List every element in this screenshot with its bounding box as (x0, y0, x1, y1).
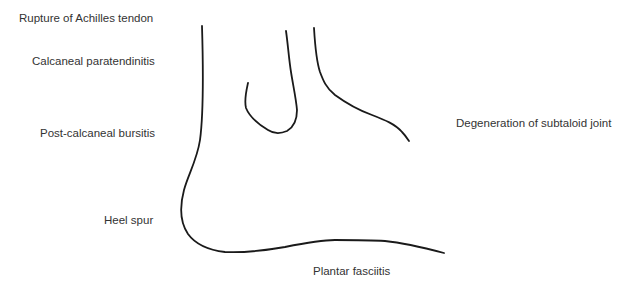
label-heel-spur: Heel spur (104, 215, 153, 227)
heel-achilles-outline (181, 26, 444, 253)
dorsum-outline (314, 28, 409, 141)
foot-outline-drawing (0, 0, 636, 290)
label-calcaneal-paratendinitis: Calcaneal paratendinitis (32, 56, 155, 68)
label-rupture-achilles-tendon: Rupture of Achilles tendon (19, 13, 153, 25)
label-plantar-fasciitis: Plantar fasciitis (313, 266, 390, 278)
label-degeneration-subtaloid-joint: Degeneration of subtaloid joint (456, 118, 611, 130)
label-post-calcaneal-bursitis: Post-calcaneal bursitis (40, 128, 155, 140)
malleolus-outline (245, 31, 297, 133)
